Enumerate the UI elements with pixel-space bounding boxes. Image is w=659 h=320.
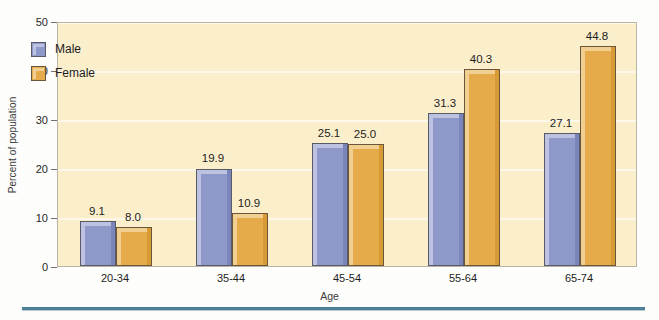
bar-value-label: 19.9: [183, 152, 243, 164]
plot-area: [57, 22, 637, 267]
bar-value-label: 40.3: [451, 53, 511, 65]
bar-male: [544, 133, 580, 266]
y-axis-title: Percent of population: [7, 65, 18, 225]
gridline: [58, 71, 636, 73]
legend-item-male: Male: [31, 37, 95, 61]
legend-label-female: Female: [55, 66, 95, 80]
y-axis-tick-label: 0: [8, 261, 48, 273]
y-axis-tick: [51, 267, 57, 268]
y-axis-tick-label: 10: [8, 212, 48, 224]
bar-female: [580, 46, 616, 266]
chart-legend: Male Female: [31, 37, 95, 85]
legend-swatch-male: [31, 42, 46, 57]
legend-swatch-female: [31, 66, 46, 81]
chart-figure: Percent of population 01020304050 9.18.0…: [0, 0, 659, 320]
bar-female: [116, 227, 152, 266]
bar-male: [196, 169, 232, 267]
bar-value-label: 44.8: [567, 30, 627, 42]
y-axis-tick-label: 50: [8, 16, 48, 28]
legend-label-male: Male: [55, 42, 81, 56]
bar-value-label: 27.1: [531, 117, 591, 129]
bar-female: [232, 213, 268, 266]
x-axis-tick-label: 65-74: [534, 272, 624, 284]
y-axis-tick-label: 20: [8, 163, 48, 175]
bar-male: [312, 143, 348, 266]
bar-value-label: 31.3: [415, 97, 475, 109]
bar-value-label: 10.9: [219, 197, 279, 209]
x-axis-tick-label: 55-64: [418, 272, 508, 284]
gridline: [58, 23, 636, 24]
legend-item-female: Female: [31, 61, 95, 85]
bar-value-label: 8.0: [103, 211, 163, 223]
footer-rule-shadow: [22, 310, 645, 311]
bar-female: [348, 144, 384, 267]
x-axis-tick-label: 35-44: [186, 272, 276, 284]
x-axis-title: Age: [0, 290, 659, 302]
bar-male: [80, 221, 116, 266]
x-axis-tick-label: 20-34: [70, 272, 160, 284]
y-axis-tick-label: 30: [8, 114, 48, 126]
bar-male: [428, 113, 464, 266]
x-axis-tick-label: 45-54: [302, 272, 392, 284]
bar-value-label: 25.0: [335, 128, 395, 140]
